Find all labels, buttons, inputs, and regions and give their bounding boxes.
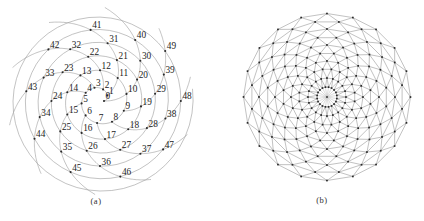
mesh-node-dot bbox=[347, 125, 349, 127]
mesh-node-dot bbox=[287, 76, 289, 78]
mesh-node-dot bbox=[271, 56, 273, 58]
mesh-node-dot bbox=[310, 47, 312, 49]
mesh-node-dot bbox=[305, 32, 307, 34]
mesh-node-dot bbox=[326, 13, 328, 15]
mesh-node-dot bbox=[301, 109, 303, 111]
point-number-label: 15 bbox=[69, 105, 79, 115]
point-number-label: 45 bbox=[72, 163, 82, 173]
mesh-node-dot bbox=[284, 54, 286, 56]
mesh-node-dot bbox=[307, 96, 309, 98]
mesh-node-dot bbox=[368, 66, 370, 68]
mesh-node-dot bbox=[365, 116, 367, 118]
mesh-node-dot bbox=[336, 155, 338, 157]
point-number-label: 6 bbox=[87, 106, 92, 116]
mesh-node-dot bbox=[357, 54, 359, 56]
mesh-node-dot bbox=[317, 37, 319, 39]
mesh-node-dot bbox=[401, 108, 403, 110]
mesh-node-dot bbox=[335, 92, 337, 94]
mesh-node-dot bbox=[277, 29, 279, 31]
mesh-node-dot bbox=[342, 47, 344, 49]
mesh-node-dot bbox=[296, 54, 298, 56]
point-number-label: 7 bbox=[99, 113, 104, 123]
mesh-node-dot bbox=[354, 92, 356, 94]
point-number-label: 35 bbox=[63, 142, 73, 152]
mesh-node-dot bbox=[345, 96, 347, 98]
mesh-node-dot bbox=[331, 87, 333, 89]
mesh-node-dot bbox=[344, 102, 346, 104]
point-number-label: 48 bbox=[182, 91, 192, 101]
mesh-node-dot bbox=[296, 138, 298, 140]
mesh-node-dot bbox=[322, 69, 324, 71]
mesh-node-dot bbox=[292, 164, 294, 166]
point-number-label: 34 bbox=[41, 108, 51, 118]
mesh-node-dot bbox=[357, 65, 359, 67]
mesh-node-dot bbox=[337, 130, 339, 132]
mesh-node-dot bbox=[326, 60, 328, 62]
mesh-node-dot bbox=[299, 101, 301, 103]
mesh-node-dot bbox=[277, 112, 279, 114]
mesh-node-dot bbox=[333, 53, 335, 55]
point-number-label: 3 bbox=[96, 78, 101, 88]
mesh-node-dot bbox=[299, 150, 301, 152]
mesh-node-dot bbox=[322, 124, 324, 126]
mesh-node-dot bbox=[299, 43, 301, 45]
mesh-node-dot bbox=[306, 135, 308, 137]
mesh-node-dot bbox=[317, 101, 319, 103]
mesh-node-dot bbox=[346, 116, 348, 118]
mesh-node-dot bbox=[351, 109, 353, 111]
mesh-node-dot bbox=[284, 139, 286, 141]
mesh-node-dot bbox=[283, 89, 285, 91]
point-number-label: 29 bbox=[157, 84, 167, 94]
mesh-node-dot bbox=[310, 146, 312, 148]
point-number-label: 27 bbox=[122, 140, 132, 150]
mesh-node-dot bbox=[308, 90, 310, 92]
mesh-node-dot bbox=[319, 103, 321, 105]
point-number-label: 9 bbox=[125, 101, 130, 111]
mesh-node-dot bbox=[326, 132, 328, 134]
mesh-node-dot bbox=[326, 28, 328, 30]
mesh-node-dot bbox=[335, 101, 337, 103]
mesh-node-dot bbox=[331, 124, 333, 126]
mesh-node-dot bbox=[325, 86, 327, 88]
mesh-node-dot bbox=[284, 66, 286, 68]
mesh-node-dot bbox=[272, 42, 274, 44]
point-number-label: 13 bbox=[82, 66, 92, 76]
mesh-node-dot bbox=[306, 76, 308, 78]
mesh-node-dot bbox=[328, 106, 330, 108]
mesh-node-dot bbox=[273, 69, 275, 71]
point-number-label: 33 bbox=[45, 68, 55, 78]
mesh-node-dot bbox=[326, 148, 328, 150]
point-number-label: 47 bbox=[165, 140, 175, 150]
mesh-node-dot bbox=[332, 114, 334, 116]
point-number-label: 14 bbox=[69, 83, 79, 93]
mesh-node-dot bbox=[336, 98, 338, 100]
point-number-label: 21 bbox=[119, 51, 129, 61]
mesh-node-dot bbox=[251, 108, 253, 110]
mesh-node-dot bbox=[331, 69, 333, 71]
spiral-lattice-drawing: 0123456789101112131415161718192021222324… bbox=[0, 0, 212, 221]
mesh-node-dot bbox=[258, 96, 260, 98]
mesh-node-dot bbox=[346, 76, 348, 78]
mesh-node-dot bbox=[311, 85, 313, 87]
mesh-node-dot bbox=[272, 150, 274, 152]
mesh-node-dot bbox=[271, 136, 273, 138]
mesh-node-dot bbox=[361, 164, 363, 166]
mesh-node-dot bbox=[297, 75, 299, 77]
point-number-label: 26 bbox=[88, 141, 98, 151]
mesh-node-dot bbox=[322, 105, 324, 107]
mesh-node-dot bbox=[305, 125, 307, 127]
mesh-node-dot bbox=[337, 112, 339, 114]
center-node-dot bbox=[326, 96, 328, 98]
mesh-node-dot bbox=[337, 81, 339, 83]
point-number-label: 8 bbox=[114, 112, 119, 122]
mesh-node-dot bbox=[332, 78, 334, 80]
mesh-node-dot bbox=[376, 80, 378, 82]
point-number-label: 43 bbox=[28, 82, 38, 92]
mesh-node-dot bbox=[355, 117, 357, 119]
mesh-node-dot bbox=[299, 92, 301, 94]
mesh-node-dot bbox=[333, 89, 335, 91]
mesh-node-dot bbox=[385, 106, 387, 108]
mesh-node-dot bbox=[375, 164, 377, 166]
mesh-node-dot bbox=[410, 96, 412, 98]
mesh-node-dot bbox=[326, 164, 328, 166]
